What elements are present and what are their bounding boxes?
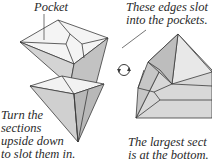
largest-line-2: is at the bottom.	[128, 149, 209, 162]
rotate-arrows-icon	[117, 65, 131, 76]
turn-line-4: to slot them in.	[1, 148, 75, 161]
right-model-section	[136, 34, 212, 118]
largest-section-caption: The largest sect is at the bottom.	[128, 136, 209, 162]
pocket-label: Pocket	[34, 1, 68, 14]
edges-slot-line-2: into the pockets.	[126, 14, 208, 27]
origami-instruction-figure: Pocket These edges slot into the pockets…	[0, 0, 212, 164]
edges-slot-caption: These edges slot into the pockets.	[126, 1, 208, 27]
turn-sections-caption: Turn the sections upside down to slot th…	[1, 109, 75, 161]
edges-leader-line	[122, 30, 146, 48]
